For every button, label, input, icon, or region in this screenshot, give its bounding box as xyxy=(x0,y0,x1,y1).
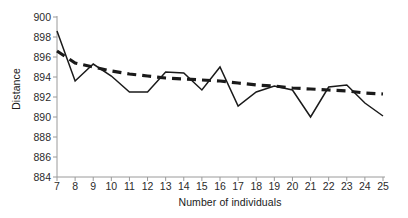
x-tick-label: 23 xyxy=(337,180,357,192)
series-line-distance xyxy=(57,31,383,117)
x-tick-label: 14 xyxy=(174,180,194,192)
x-tick-label: 15 xyxy=(192,180,212,192)
x-tick-label: 24 xyxy=(355,180,375,192)
x-tick-label: 19 xyxy=(264,180,284,192)
x-tick-label: 20 xyxy=(282,180,302,192)
x-tick-label: 25 xyxy=(373,180,393,192)
axes xyxy=(57,16,385,177)
x-tick-label: 22 xyxy=(319,180,339,192)
x-axis-title: Number of individuals xyxy=(0,196,408,208)
x-tick-label: 16 xyxy=(210,180,230,192)
x-tick-label: 7 xyxy=(47,180,67,192)
x-tick-label: 11 xyxy=(119,180,139,192)
x-tick-label: 21 xyxy=(301,180,321,192)
x-tick-label: 9 xyxy=(83,180,103,192)
x-tick-label: 12 xyxy=(138,180,158,192)
axis-ticks xyxy=(53,17,383,181)
x-tick-label: 17 xyxy=(228,180,248,192)
data-series xyxy=(57,31,383,117)
x-tick-label: 10 xyxy=(101,180,121,192)
x-tick-label: 13 xyxy=(156,180,176,192)
x-tick-label: 8 xyxy=(65,180,85,192)
x-tick-label: 18 xyxy=(246,180,266,192)
line-chart: Distance 884886888890892894896898900 789… xyxy=(0,0,408,218)
